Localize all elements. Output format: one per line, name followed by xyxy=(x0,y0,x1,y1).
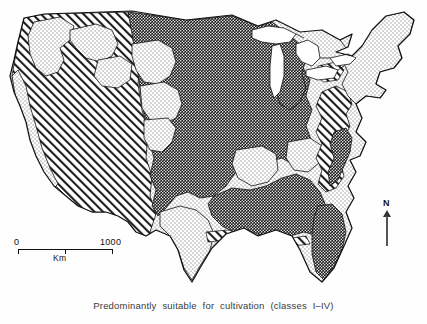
north-arrow-icon: N xyxy=(378,198,400,250)
scale-unit-label: Km xyxy=(53,253,66,263)
scale-bar: 0 1000 Km xyxy=(12,236,122,266)
figure-caption: Predominantly suitable for cultivation (… xyxy=(0,300,427,311)
north-label: N xyxy=(383,198,390,208)
scale-max-label: 1000 xyxy=(100,237,121,247)
north-arrow-shaft xyxy=(386,216,388,246)
figure-container: 0 1000 Km N Predominantly suitable for c… xyxy=(0,0,427,324)
scale-tick-max xyxy=(112,249,113,254)
scale-tick-0 xyxy=(18,249,19,254)
scale-min-label: 0 xyxy=(14,237,19,247)
area-florida-dark xyxy=(312,204,346,280)
